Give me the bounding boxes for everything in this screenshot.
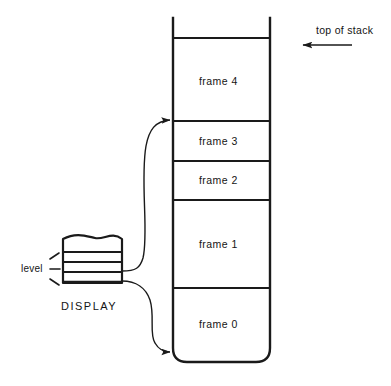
- frame-label-1: frame 1: [199, 238, 238, 250]
- level-brace-icon: [50, 253, 60, 285]
- diagram-vector-layer: [0, 0, 391, 386]
- level-label: level: [21, 263, 43, 274]
- top-of-stack-label: top of stack: [316, 24, 373, 36]
- pointer-curve-lower: [122, 281, 170, 352]
- diagram-canvas: top of stack frame 4 frame 3 frame 2 fra…: [0, 0, 391, 386]
- display-label: DISPLAY: [61, 300, 117, 312]
- frame-label-0: frame 0: [199, 318, 238, 330]
- frame-label-4: frame 4: [199, 75, 238, 87]
- stack-outline: [173, 18, 270, 362]
- pointer-curve-upper: [122, 120, 170, 271]
- frame-label-2: frame 2: [199, 174, 238, 186]
- display-box: [63, 235, 122, 283]
- frame-label-3: frame 3: [199, 135, 238, 147]
